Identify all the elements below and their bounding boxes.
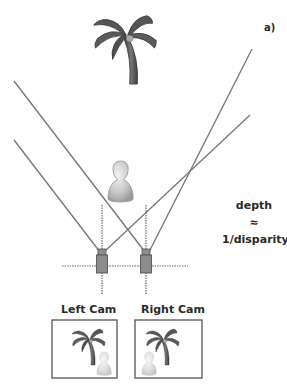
- left-cam-left-ray: [14, 140, 100, 252]
- depth-formula: depth ≈ 1/disparity: [222, 197, 286, 248]
- left-camera-icon: [97, 249, 108, 273]
- left-cam-image: [52, 320, 117, 378]
- formula-depth: depth: [222, 197, 286, 214]
- formula-disparity: 1/disparity: [222, 231, 286, 248]
- figure-label: a): [264, 22, 275, 33]
- right-camera-icon: [141, 249, 152, 273]
- right-cam-image: [135, 320, 202, 378]
- camera-axes: [62, 205, 188, 295]
- person-icon: [108, 161, 133, 202]
- palm-tree-icon: [94, 16, 157, 84]
- stereo-diagram: [0, 0, 287, 390]
- left-cam-label: Left Cam: [61, 303, 116, 316]
- formula-approx: ≈: [222, 214, 286, 231]
- right-cam-label: Right Cam: [141, 303, 205, 316]
